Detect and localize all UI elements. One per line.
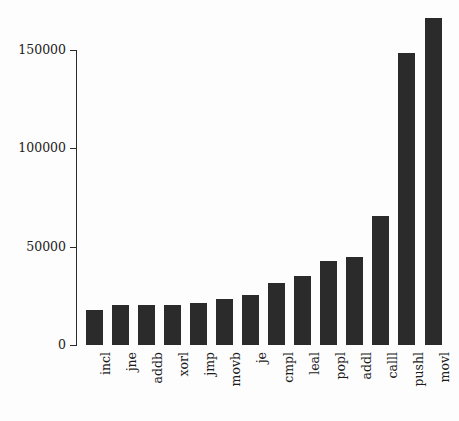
x-axis-tick-label: leal (309, 352, 322, 375)
x-axis-tick-label: pushl (413, 352, 426, 387)
x-axis-tick-label: calll (387, 352, 400, 378)
x-axis-tick-label: popl (335, 352, 348, 380)
x-axis-tick-label: addb (152, 352, 165, 383)
bar-chart: 050000100000150000 incljneaddbxorljmpmov… (0, 0, 459, 421)
x-axis-tick-label: jne (126, 352, 139, 371)
x-axis-tick-label: movl (439, 352, 452, 382)
x-axis-tick-label: addl (361, 352, 374, 379)
x-axis-tick-label: cmpl (283, 352, 296, 383)
x-axis-tick-label: je (256, 352, 269, 363)
x-axis-tick-label: movb (230, 352, 243, 386)
x-axis-labels: incljneaddbxorljmpmovbjecmpllealpopladdl… (0, 0, 459, 421)
x-axis-tick-label: jmp (204, 352, 217, 376)
x-axis-tick-label: incl (100, 352, 113, 375)
x-axis-tick-label: xorl (178, 352, 191, 377)
